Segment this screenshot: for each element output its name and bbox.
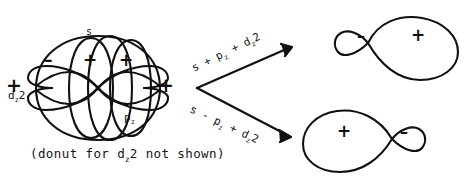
arrow-top-op-2: + (229, 41, 241, 56)
sign-plus-far-right: + (158, 76, 174, 95)
arrow-bottom-op-2: + (227, 121, 238, 136)
hybrid-bottom-right-small-lobe (392, 127, 425, 151)
hybrid-bottom-right-plus-sign: + (337, 123, 351, 140)
hybrid-top-right-minus-sign: – (357, 28, 365, 44)
hybrid-top-right-plus-sign: + (411, 27, 425, 44)
figure-caption: (donut for dz2 not shown) (30, 148, 225, 163)
caption-after: 2 not shown) (130, 146, 225, 161)
arrow-top-op-1: + (202, 54, 214, 69)
sign-minus-top-left-lobe: – (44, 52, 53, 69)
s-orbital-label: s (86, 27, 92, 37)
pz-orbital-label: pz (124, 112, 135, 126)
hybrid-bottom-right-minus-sign: – (400, 124, 408, 140)
arrow-bottom-head (279, 130, 291, 142)
figure-canvas: s dz2 pz (donut for dz2 not shown) + + –… (0, 0, 470, 177)
sign-plus-far-left: + (6, 76, 22, 95)
sign-plus-top-middle-lobe: + (83, 52, 97, 69)
pz-label-base: p (124, 111, 131, 124)
pz-label-subscript: z (131, 118, 135, 126)
hybrid-bottom-right-large-lobe (303, 110, 392, 172)
arrow-bottom-op-1: - (200, 108, 211, 123)
center-node (96, 86, 101, 91)
caption-before: (donut for d (30, 146, 125, 161)
sign-plus-top-right-lobe: + (119, 52, 133, 69)
